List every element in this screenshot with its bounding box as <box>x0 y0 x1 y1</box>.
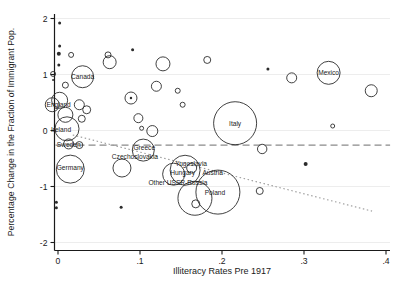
data-point-dot <box>57 63 60 66</box>
data-point-dot <box>131 48 134 51</box>
x-tick-label: 0 <box>56 256 61 266</box>
country-label: Greece <box>133 144 155 151</box>
bubble <box>62 82 68 88</box>
country-label: Ireland <box>51 126 71 133</box>
bubble <box>175 88 180 93</box>
country-label: Mexico <box>318 69 339 76</box>
bubble <box>365 85 377 97</box>
bubble <box>180 102 185 107</box>
country-label: England <box>47 101 72 109</box>
data-point-dot <box>55 201 58 204</box>
data-point-dot <box>57 52 61 56</box>
y-tick-label: 2 <box>43 14 48 24</box>
bubble <box>204 56 211 63</box>
bubble <box>156 57 170 71</box>
bubble <box>147 126 158 137</box>
x-tick-label: .2 <box>218 256 225 266</box>
data-point-dot <box>58 44 61 47</box>
country-label: Poland <box>205 189 226 196</box>
x-tick-label: .1 <box>136 256 143 266</box>
bubble <box>192 200 200 208</box>
bubble <box>134 114 143 123</box>
bubble <box>105 52 111 58</box>
country-label: Sweden <box>57 141 81 148</box>
country-bubble <box>113 159 131 177</box>
bubble-center-dot <box>130 97 132 99</box>
y-tick-label: 1 <box>43 70 48 80</box>
country-label: Yugoslavia <box>175 160 207 168</box>
bubble <box>140 126 144 130</box>
y-tick-label: -2 <box>40 238 48 248</box>
bubble <box>256 187 263 194</box>
country-label: Other USSR-Russia <box>148 179 207 186</box>
data-point-dot <box>266 67 269 70</box>
bubble <box>69 52 74 57</box>
x-tick-label: .4 <box>382 256 389 266</box>
y-tick-label: -1 <box>40 182 48 192</box>
country-label: Austria <box>202 169 223 176</box>
data-point-dot <box>120 206 123 209</box>
x-axis-title: Illiteracy Rates Pre 1917 <box>173 266 271 276</box>
data-point-dot <box>58 21 61 24</box>
country-label: Germany <box>57 164 85 172</box>
country-label: Czechoslovakia <box>112 153 159 160</box>
x-tick-label: .3 <box>300 256 307 266</box>
bubble-scatter-figure: Percentage Change in the Fraction of Imm… <box>0 0 403 296</box>
bubble <box>83 106 91 114</box>
bubble <box>331 124 335 128</box>
bubble <box>151 81 161 91</box>
bubble <box>257 144 266 153</box>
y-tick-label: 0 <box>43 126 48 136</box>
bubble <box>58 107 73 122</box>
bubble <box>78 115 85 122</box>
data-point-dot <box>55 206 58 209</box>
scatter-plot-canvas: -2-10120.1.2.3.4CanadaEnglandIrelandSwed… <box>0 0 403 296</box>
country-label: Italy <box>229 120 242 128</box>
data-point-dot <box>304 162 308 166</box>
country-label: Hungary <box>170 169 196 177</box>
country-label: Canada <box>71 73 94 80</box>
data-point-dot <box>52 79 54 81</box>
